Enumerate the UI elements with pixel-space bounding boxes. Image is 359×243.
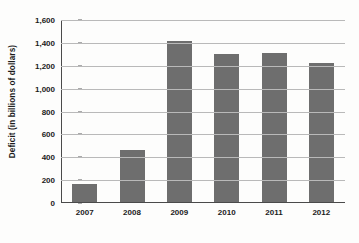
gridline bbox=[61, 43, 345, 44]
y-axis-tick-label: 800 bbox=[42, 107, 55, 116]
y-axis-tick-label: 1,000 bbox=[35, 84, 55, 93]
plot-area bbox=[61, 20, 345, 203]
gridline bbox=[61, 157, 345, 158]
y-axis-tick-label: 1,200 bbox=[35, 61, 55, 70]
x-axis-tick-label: 2010 bbox=[203, 208, 250, 217]
x-axis-tick-label: 2008 bbox=[109, 208, 156, 217]
y-axis-tick-label: 600 bbox=[42, 130, 55, 139]
gridline bbox=[61, 89, 345, 90]
y-axis-tick-label: 200 bbox=[42, 176, 55, 185]
x-axis-tick-label: 2009 bbox=[156, 208, 203, 217]
x-axis-tick-label: 2011 bbox=[251, 208, 298, 217]
gridline bbox=[61, 66, 345, 67]
x-axis-tick-label: 2007 bbox=[61, 208, 108, 217]
x-axis-tick-label: 2012 bbox=[298, 208, 345, 217]
gridline bbox=[61, 134, 345, 135]
gridline bbox=[61, 180, 345, 181]
y-axis-tick-labels: 02004006008001,0001,2001,4001,600 bbox=[20, 0, 58, 243]
y-axis-title-text: Deficit (in billions of dollars) bbox=[9, 45, 18, 158]
bar[interactable] bbox=[72, 184, 97, 202]
gridline bbox=[61, 112, 345, 113]
y-axis-tick-label: 0 bbox=[51, 199, 55, 208]
x-axis-tick-labels: 200720082009201020112012 bbox=[61, 208, 345, 228]
y-axis-tick-label: 1,400 bbox=[35, 38, 55, 47]
y-axis-tick-label: 1,600 bbox=[35, 16, 55, 25]
bar-chart: Deficit (in billions of dollars) 0200400… bbox=[0, 0, 359, 243]
y-axis-tick-label: 400 bbox=[42, 153, 55, 162]
gridline bbox=[61, 20, 345, 21]
